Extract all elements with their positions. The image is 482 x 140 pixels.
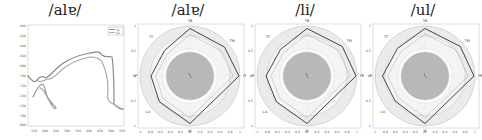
svg-text:-0.4: -0.4 [284,130,290,134]
x-ticks: 150 200 250 300 350 400 450 500 550 [31,129,125,133]
svg-text:0.5: 0.5 [366,49,371,53]
svg-text:-760: -760 [19,104,26,108]
svg-text:0: 0 [424,130,426,134]
svg-text:1: 1 [369,24,371,28]
svg-text:450: 450 [97,129,103,133]
axis-label: TR [477,74,482,78]
svg-text:-720: -720 [19,84,26,88]
svg-text:0.6: 0.6 [334,130,339,134]
contour-chart: -600 -620 -640 -660 -680 -700 -720 -740 … [0,0,130,140]
svg-text:1: 1 [356,130,358,134]
svg-text:0.4: 0.4 [207,130,212,134]
svg-text:0.8: 0.8 [462,130,467,134]
svg-text:1: 1 [474,130,476,134]
axis-label: TT [148,35,154,39]
axis-label: TT [383,35,389,39]
radar-panel-ale: /alɐ/ TBTMTRJALALPTT-1-0.8-0.6-0.4-0.200… [130,0,246,140]
svg-text:0: 0 [306,130,308,134]
svg-text:-740: -740 [19,94,26,98]
svg-text:0.2: 0.2 [314,130,319,134]
axis-label: LA [146,110,151,114]
svg-text:0.2: 0.2 [432,130,437,134]
svg-text:-0.2: -0.2 [294,130,300,134]
svg-text:0: 0 [251,74,253,78]
svg-text:0.4: 0.4 [324,130,329,134]
svg-text:-1: -1 [138,130,141,134]
axis-label: TM [463,39,469,43]
axis-label: TM [345,39,351,43]
svg-text:-0.5: -0.5 [365,99,371,103]
svg-text:-0.8: -0.8 [147,130,153,134]
svg-text:400: 400 [86,129,92,133]
svg-text:1: 1 [251,24,253,28]
svg-text:-0.5: -0.5 [130,99,136,103]
axis-label: TB [187,19,193,23]
svg-text:-680: -680 [19,64,26,68]
axis-label: TT [265,35,271,39]
svg-text:-0.6: -0.6 [392,130,398,134]
svg-text:-1: -1 [373,130,376,134]
axis-label: LA [263,110,268,114]
svg-text:-660: -660 [19,54,26,58]
radar-panel-ul: /ul/ TBTMTRJALALPTT-1-0.8-0.6-0.4-0.200.… [364,0,482,140]
svg-text:150: 150 [31,129,37,133]
radar-chart: TBTMTRJALALPTT-1-0.8-0.6-0.4-0.200.20.40… [246,0,364,140]
radar-chart: TBTMTRJALALPTT-1-0.8-0.6-0.4-0.200.20.40… [130,0,246,140]
svg-text:-780: -780 [19,114,26,118]
svg-text:300: 300 [64,129,70,133]
svg-text:1: 1 [239,130,241,134]
svg-text:250: 250 [53,129,59,133]
axis-label: TM [228,39,234,43]
radar-chart: TBTMTRJALALPTT-1-0.8-0.6-0.4-0.200.20.40… [364,0,482,140]
contour-panel: /alɐ/ -600 -620 -640 -660 -680 -700 -720… [0,0,130,140]
svg-text:0.8: 0.8 [227,130,232,134]
svg-text:0.5: 0.5 [131,49,136,53]
svg-text:0: 0 [134,74,136,78]
svg-text:-1: -1 [255,130,258,134]
svg-text:-0.6: -0.6 [157,130,163,134]
y-ticks: -600 -620 -640 -660 -680 -700 -720 -740 … [19,24,26,127]
svg-text:0: 0 [369,74,371,78]
radar-panel-li: /li/ TBTMTRJALALPTT-1-0.8-0.6-0.4-0.200.… [246,0,364,140]
svg-text:200: 200 [42,129,48,133]
axis-label: TB [304,19,310,23]
svg-text:-1: -1 [368,124,371,128]
svg-text:-700: -700 [19,74,26,78]
svg-text:-640: -640 [19,44,26,48]
svg-text:-1: -1 [133,124,136,128]
svg-text:s2: s2 [116,31,120,35]
svg-text:-620: -620 [19,34,26,38]
axis-label: TB [422,19,428,23]
svg-text:1: 1 [134,24,136,28]
axis-label: LA [381,110,386,114]
svg-text:350: 350 [75,129,81,133]
svg-text:500: 500 [108,129,114,133]
svg-text:550: 550 [119,129,125,133]
svg-text:-0.4: -0.4 [167,130,173,134]
svg-text:0.8: 0.8 [344,130,349,134]
svg-text:-0.8: -0.8 [264,130,270,134]
svg-text:0.5: 0.5 [248,49,253,53]
svg-text:-0.8: -0.8 [382,130,388,134]
svg-text:-600: -600 [19,24,26,28]
svg-text:-0.6: -0.6 [274,130,280,134]
svg-text:-0.2: -0.2 [177,130,183,134]
svg-text:-800: -800 [19,123,26,127]
legend: s1 s2 [108,27,123,35]
svg-text:0: 0 [189,130,191,134]
svg-text:0.6: 0.6 [452,130,457,134]
svg-text:0.4: 0.4 [442,130,447,134]
svg-text:-0.4: -0.4 [402,130,408,134]
svg-text:0.6: 0.6 [217,130,222,134]
svg-text:-0.2: -0.2 [412,130,418,134]
svg-text:-1: -1 [250,124,253,128]
svg-text:0.2: 0.2 [197,130,202,134]
svg-text:-0.5: -0.5 [247,99,253,103]
